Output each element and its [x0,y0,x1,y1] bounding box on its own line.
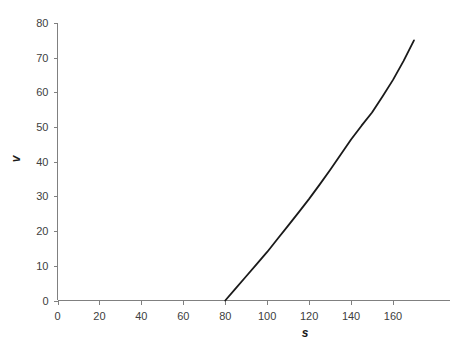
y-tick-label: 40 [36,156,48,168]
y-tick-label: 10 [36,260,48,272]
y-tick-label: 30 [36,190,48,202]
line-chart: 01020304050607080 v 02040608010012014016… [0,0,466,346]
y-tick-label: 20 [36,225,48,237]
chart-page: 01020304050607080 v 02040608010012014016… [0,0,466,346]
y-tick-label: 70 [36,52,48,64]
x-tick-label: 140 [342,310,360,322]
x-tick-label: 60 [177,310,189,322]
y-tick-label: 60 [36,86,48,98]
x-tick-label: 120 [300,310,318,322]
y-tick-label: 50 [36,121,48,133]
y-tick-label: 0 [42,295,48,307]
x-axis-title: s [302,326,309,340]
x-tick-label: 0 [54,310,60,322]
x-tick-label: 100 [258,310,276,322]
chart-background [0,0,466,346]
y-tick-labels: 01020304050607080 [36,17,48,307]
y-tick-label: 80 [36,17,48,29]
x-tick-label: 80 [219,310,231,322]
x-tick-label: 160 [384,310,402,322]
x-tick-label: 40 [135,310,147,322]
x-tick-label: 20 [93,310,105,322]
